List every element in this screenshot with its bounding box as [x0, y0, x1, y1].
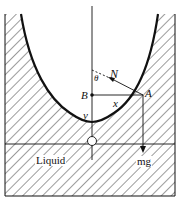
label-N: N [110, 68, 118, 80]
hatched-region [5, 14, 175, 196]
label-B: B [81, 90, 88, 101]
label-A: A [145, 88, 152, 99]
parabolic-surface-diagram: N θ B A x y Liquid mg [0, 0, 176, 208]
label-x: x [113, 98, 118, 109]
label-y: y [83, 110, 88, 121]
label-theta: θ [94, 74, 98, 83]
diagram-graphic [0, 0, 176, 208]
label-mg: mg [136, 156, 152, 167]
particle-circle [88, 137, 97, 146]
label-liquid: Liquid [35, 155, 66, 166]
